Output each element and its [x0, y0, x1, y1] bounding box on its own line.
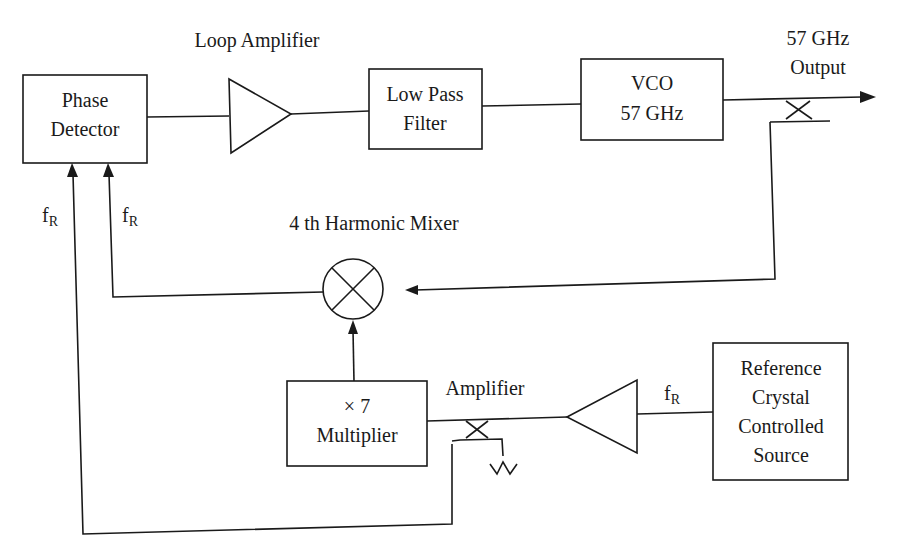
termination-icon — [490, 462, 517, 474]
reference-source-block: Reference Crystal Controlled Source — [713, 343, 848, 480]
phase-detector-label-line2: Detector — [51, 118, 120, 140]
reference-label-line2: Crystal — [752, 386, 810, 409]
wire-vco-output — [723, 97, 862, 100]
wire-loop-amp-to-lpf — [291, 111, 369, 114]
multiplier-block: × 7 Multiplier — [287, 381, 427, 466]
phase-detector-label-line1: Phase — [62, 89, 109, 111]
harmonic-mixer-label: 4 th Harmonic Mixer — [289, 212, 459, 234]
reference-label-line4: Source — [753, 444, 809, 466]
vco-block: VCO 57 GHz — [581, 59, 723, 140]
pll-block-diagram: Phase Detector Loop Amplifier Low Pass F… — [0, 0, 904, 551]
wire-ref-source-to-amp — [637, 412, 713, 414]
vco-label-line2: 57 GHz — [621, 102, 684, 124]
fr-label-2: fR — [122, 204, 139, 229]
wire-lpf-to-vco — [482, 104, 581, 106]
mixer-input-arrow-icon — [405, 285, 418, 295]
pd-input2-arrow-icon — [103, 163, 114, 177]
loop-amplifier-label: Loop Amplifier — [195, 29, 320, 52]
output-arrow-icon — [860, 91, 876, 103]
mixer-icon — [323, 259, 383, 319]
fr-label-3: fR — [664, 382, 681, 407]
mixer-lo-arrow-icon — [348, 320, 358, 334]
output-label-line2: Output — [790, 56, 846, 79]
phase-detector-block: Phase Detector — [23, 75, 147, 163]
amplifier-label: Amplifier — [446, 377, 525, 400]
multiplier-label-line2: Multiplier — [316, 424, 397, 447]
pd-input1-arrow-icon — [67, 163, 78, 177]
wire-pd-to-loop-amp — [147, 116, 229, 117]
low-pass-filter-block: Low Pass Filter — [369, 69, 482, 149]
wire-mixer-to-pd — [109, 174, 323, 297]
wire-multiplier-to-mixer — [353, 330, 354, 382]
output-label-line1: 57 GHz — [787, 27, 850, 49]
lpf-label-line1: Low Pass — [386, 83, 463, 105]
lpf-label-line2: Filter — [403, 112, 447, 134]
reference-label-line3: Controlled — [738, 415, 824, 437]
multiplier-label-line1: × 7 — [344, 395, 370, 417]
reference-label-line1: Reference — [740, 357, 821, 379]
ref-coupler-icon — [452, 421, 503, 456]
vco-label-line1: VCO — [631, 72, 673, 94]
loop-amplifier-icon — [229, 79, 291, 153]
fr-label-1: fR — [42, 204, 59, 229]
wire-ref-amp-to-multiplier — [427, 417, 567, 421]
ref-amplifier-icon — [567, 380, 637, 453]
output-coupler-icon — [770, 101, 830, 122]
